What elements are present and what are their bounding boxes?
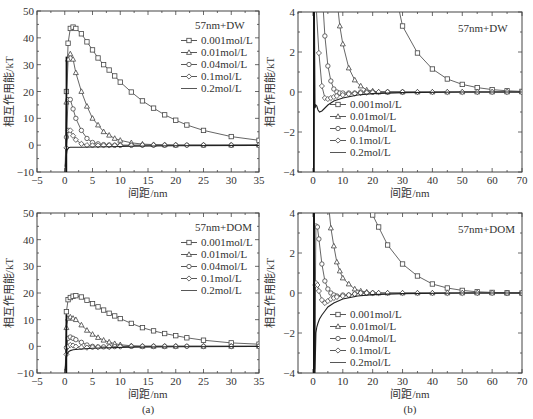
chart-title: 57nm+DW: [195, 19, 245, 31]
x-tick-label: 10: [337, 375, 349, 387]
square-marker: [101, 62, 105, 66]
diamond-marker: [316, 288, 321, 293]
square-marker: [85, 298, 89, 302]
legend-item-label: 0.01mol/L: [201, 46, 247, 58]
square-marker: [107, 311, 111, 315]
square-marker: [90, 48, 94, 52]
triangle-marker: [71, 57, 76, 62]
circle-marker: [326, 64, 330, 68]
triangle-marker: [337, 23, 342, 28]
series-line: [65, 345, 259, 370]
legend-item-label: 0.01mol/L: [201, 248, 247, 260]
chart-a-top: −505101520253035−1001020304050间距/nm相互作用能…: [2, 5, 265, 199]
square-marker: [129, 321, 133, 325]
square-marker: [151, 106, 155, 110]
x-tick-label: 15: [143, 174, 155, 186]
square-marker: [385, 243, 389, 247]
x-tick-label: 0: [62, 174, 68, 186]
x-tick-label: 25: [198, 174, 210, 186]
square-marker: [185, 336, 189, 340]
triangle-marker: [334, 259, 339, 264]
x-tick-label: 60: [487, 375, 499, 387]
square-marker: [85, 40, 89, 44]
x-tick-label: 30: [397, 375, 409, 387]
legend-item-label: 0.04mol/L: [350, 332, 396, 344]
square-marker: [187, 240, 191, 244]
square-marker: [66, 41, 70, 45]
figure-canvas: −505101520253035−1001020304050间距/nm相互作用能…: [0, 0, 533, 419]
y-tick-label: 2: [290, 247, 296, 259]
legend: 0.001mol/L0.01mol/L0.04mol/L0.1mol/L0.2m…: [330, 308, 402, 368]
triangle-marker: [68, 51, 73, 56]
triangle-marker: [331, 243, 336, 248]
square-marker: [336, 312, 340, 316]
triangle-marker: [340, 275, 345, 280]
x-tick-label: 35: [254, 375, 266, 387]
legend-item-label: 0.001mol/L: [350, 98, 402, 110]
square-marker: [113, 74, 117, 78]
legend-item-label: 0.01mol/L: [350, 110, 396, 122]
y-tick-label: −10: [17, 166, 35, 178]
square-marker: [445, 77, 449, 81]
y-axis-label: 相互作用能/kT: [263, 258, 276, 329]
x-tick-label: 35: [254, 174, 266, 186]
legend-item-label: 0.2mol/L: [350, 146, 391, 158]
square-marker: [400, 24, 404, 28]
legend-item-label: 0.04mol/L: [201, 58, 247, 70]
square-marker: [90, 301, 94, 305]
chart-title: 57nm+DOM: [458, 223, 515, 235]
square-marker: [376, 225, 380, 229]
legend-item-label: 0.1mol/L: [350, 134, 391, 146]
triangle-marker: [328, 225, 333, 230]
diamond-marker: [186, 276, 191, 281]
legend-item-label: 0.01mol/L: [350, 320, 396, 332]
x-tick-label: 10: [115, 375, 127, 387]
diamond-marker: [319, 83, 324, 88]
square-marker: [151, 329, 155, 333]
legend-item-label: 0.1mol/L: [201, 70, 242, 82]
square-marker: [107, 68, 111, 72]
legend-item-label: 0.001mol/L: [201, 236, 253, 248]
x-axis-label: 间距/nm: [390, 388, 430, 400]
y-tick-label: −4: [283, 166, 295, 178]
y-tick-label: 50: [23, 207, 35, 219]
square-marker: [74, 293, 78, 297]
triangle-marker: [340, 41, 345, 46]
x-tick-label: 5: [90, 174, 96, 186]
square-marker: [118, 80, 122, 84]
circle-marker: [68, 97, 72, 101]
square-marker: [430, 282, 434, 286]
y-tick-label: 30: [23, 59, 35, 71]
legend: 0.001mol/L0.01mol/L0.04mol/L0.1mol/L0.2m…: [181, 34, 253, 94]
square-marker: [96, 305, 100, 309]
legend-item-label: 0.001mol/L: [201, 34, 253, 46]
series-group: [64, 293, 262, 373]
x-tick-label: 50: [457, 174, 469, 186]
y-tick-label: 40: [23, 32, 35, 44]
x-tick-label: 10: [337, 174, 349, 186]
series-line: [323, 12, 402, 93]
triangle-marker: [84, 104, 89, 109]
y-tick-label: 10: [23, 314, 35, 326]
square-marker: [96, 56, 100, 60]
circle-marker: [187, 62, 191, 66]
y-tick-label: −10: [17, 367, 35, 379]
legend: 0.001mol/L0.01mol/L0.04mol/L0.1mol/L0.2m…: [330, 98, 402, 158]
x-tick-label: 20: [367, 174, 379, 186]
square-marker: [430, 67, 434, 71]
legend-item-label: 0.2mol/L: [201, 82, 242, 94]
circle-marker: [326, 287, 330, 291]
chart-title: 57nm+DOM: [195, 221, 252, 233]
chart-b-bottom: 010203040506070−4−2024间距/nm相互作用能/kT57nm+…: [263, 207, 528, 400]
square-marker: [174, 118, 178, 122]
circle-marker: [336, 336, 340, 340]
y-tick-label: 10: [23, 112, 35, 124]
x-tick-label: 15: [143, 375, 155, 387]
circle-marker: [85, 136, 89, 140]
triangle-marker: [90, 116, 95, 121]
x-tick-label: 25: [198, 375, 210, 387]
x-tick-label: 30: [397, 174, 409, 186]
diamond-marker: [316, 50, 321, 55]
x-tick-label: 10: [115, 174, 127, 186]
square-marker: [129, 90, 133, 94]
